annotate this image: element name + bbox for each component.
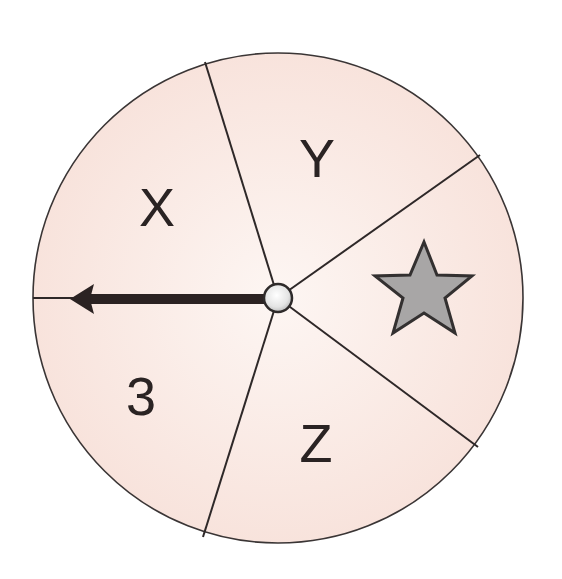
spinner-hub: [264, 284, 292, 312]
section-label-z: Z: [300, 413, 333, 473]
section-label-y: Y: [299, 128, 335, 188]
spinner-diagram: X Y 3 Z: [0, 0, 562, 579]
arrow-shaft: [88, 294, 268, 304]
section-label-3: 3: [126, 366, 156, 426]
spinner-svg: X Y 3 Z: [0, 0, 562, 579]
section-label-x: X: [139, 177, 175, 237]
